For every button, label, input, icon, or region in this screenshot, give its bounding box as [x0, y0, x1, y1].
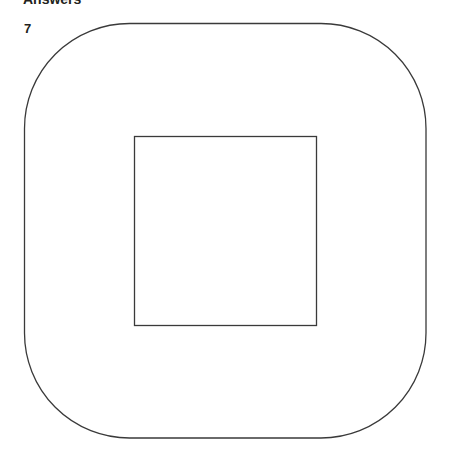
inner-square: [135, 137, 317, 326]
shape-diagram: [0, 0, 449, 454]
outer-rounded-square: [25, 24, 427, 439]
